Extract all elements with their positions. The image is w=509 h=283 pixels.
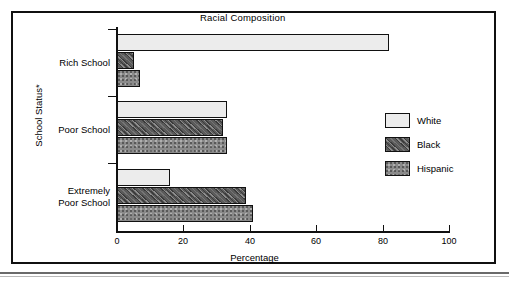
x-axis-tick	[449, 225, 450, 232]
bar-white-extremely-poor-school	[117, 169, 170, 186]
x-axis-tick-label: 40	[245, 236, 255, 246]
x-axis-tick	[250, 225, 251, 232]
y-axis-tick	[108, 163, 117, 164]
chart-figure: Racial Composition 0 20 40 60 80 100 Ric…	[0, 0, 509, 283]
x-axis-tick-label: 80	[378, 236, 388, 246]
chart-title: Racial Composition	[200, 12, 285, 23]
x-axis-tick	[316, 225, 317, 232]
x-axis-tick-label: 60	[311, 236, 321, 246]
legend-swatch-black	[385, 137, 410, 152]
legend-label-hispanic: Hispanic	[417, 163, 453, 174]
y-axis-title: School Status*	[33, 56, 44, 176]
legend-item-black: Black	[385, 136, 453, 152]
page-rule-secondary	[0, 276, 509, 277]
legend-swatch-white	[385, 113, 410, 128]
chart-legend: White Black Hispanic	[385, 112, 453, 184]
legend-item-hispanic: Hispanic	[385, 160, 453, 176]
x-axis-tick	[383, 225, 384, 232]
y-axis-tick	[108, 29, 117, 30]
page-rule	[0, 272, 509, 274]
bar-hispanic-poor-school	[117, 137, 227, 154]
bar-white-poor-school	[117, 101, 227, 118]
y-axis-tick	[108, 96, 117, 97]
bar-black-rich-school	[117, 52, 134, 69]
bar-hispanic-extremely-poor-school	[117, 205, 253, 222]
x-axis-tick	[117, 225, 118, 232]
bar-black-poor-school	[117, 119, 223, 136]
bar-black-extremely-poor-school	[117, 187, 246, 204]
legend-item-white: White	[385, 112, 453, 128]
x-axis-tick-label: 100	[441, 236, 456, 246]
bar-white-rich-school	[117, 34, 389, 51]
x-axis-tick-label: 20	[178, 236, 188, 246]
x-axis-tick	[183, 225, 184, 232]
x-axis-line	[116, 231, 450, 233]
bar-hispanic-rich-school	[117, 70, 140, 87]
y-axis-category-label: Extremely Poor School	[0, 185, 110, 208]
y-axis-category-label: Poor School	[0, 124, 110, 136]
x-axis-tick-label: 0	[114, 236, 119, 246]
legend-swatch-hispanic	[385, 161, 410, 176]
legend-label-black: Black	[417, 139, 440, 150]
legend-label-white: White	[417, 115, 441, 126]
x-axis-title: Percentage	[0, 252, 509, 263]
y-axis-category-label: Rich School	[0, 57, 110, 69]
